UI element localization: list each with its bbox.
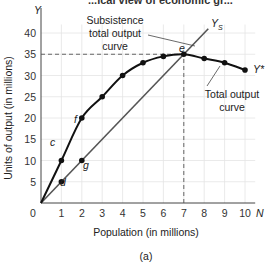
y-tick-label: 35 — [24, 48, 36, 60]
subsistence-label-3: curve — [102, 40, 128, 52]
total-output-point — [99, 94, 105, 100]
x-tick-label: 5 — [140, 207, 146, 219]
point-label-e: e — [179, 42, 185, 54]
x-tick-labels: 12345678910 — [58, 207, 251, 219]
x-tick-label: 3 — [99, 207, 105, 219]
total-output-label-2: curve — [219, 101, 245, 113]
total-output-point — [161, 54, 167, 60]
x-tick-label: 10 — [239, 207, 251, 219]
x-tick-label: 8 — [201, 207, 207, 219]
total-output-label-1: Total output — [205, 88, 259, 100]
subsistence-label-2: total output — [89, 27, 141, 39]
header-partial: ...ical view of economic gr... — [88, 0, 233, 6]
total-output-point — [120, 73, 126, 79]
y-tick-label: 40 — [24, 27, 36, 39]
point-label-f: f — [74, 113, 78, 125]
y-tick-label: 5 — [30, 176, 36, 188]
y-tick-label: 15 — [24, 133, 36, 145]
ys-label: YS — [211, 17, 223, 31]
economic-growth-chart: ...ical view of economic gr... 123456789… — [0, 0, 271, 264]
x-axis-symbol: N — [256, 207, 264, 219]
x-tick-label: 9 — [222, 207, 228, 219]
x-axis-title: Population (in millions) — [93, 226, 199, 238]
x-tick-label: 6 — [160, 207, 166, 219]
y-tick-label: 10 — [24, 155, 36, 167]
x-tick-label: 4 — [120, 207, 126, 219]
total-output-point — [242, 67, 248, 73]
caption: (a) — [140, 250, 153, 262]
y-axis-symbol: Y — [34, 4, 42, 16]
y-tick-label: 25 — [24, 91, 36, 103]
origin-label: 0 — [30, 207, 36, 219]
subsistence-leader — [148, 35, 195, 46]
total-output-point — [79, 115, 85, 121]
total-output-point — [59, 158, 65, 164]
ystar-label: Y* — [253, 63, 265, 75]
x-tick-label: 7 — [181, 207, 187, 219]
y-tick-labels: 510152025303540 — [24, 27, 36, 188]
subsistence-label-1: Subsistence — [86, 14, 143, 26]
total-output-point — [140, 60, 146, 66]
y-tick-label: 30 — [24, 70, 36, 82]
total-output-point — [222, 60, 228, 66]
x-tick-label: 1 — [58, 207, 64, 219]
y-axis-title: Units of output (in millions) — [2, 56, 14, 180]
y-tick-label: 20 — [24, 112, 36, 124]
total-output-point — [201, 56, 207, 62]
point-label-g: g — [83, 159, 89, 171]
x-tick-label: 2 — [79, 207, 85, 219]
point-label-c: c — [50, 136, 56, 148]
total-output-leader — [207, 66, 220, 86]
